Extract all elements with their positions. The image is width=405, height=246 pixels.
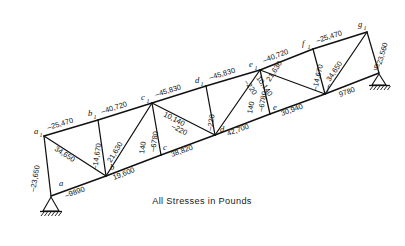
svg-text:1: 1 xyxy=(308,44,311,50)
svg-text:b: b xyxy=(88,108,93,118)
figure-canvas: a b c d e f g a 1 b 1 c 1 d 1 e 1 f 1 xyxy=(0,0,405,246)
member-a1-a xyxy=(44,136,51,196)
stress-b1-b: –14,670 xyxy=(90,143,103,171)
svg-text:1: 1 xyxy=(40,132,43,138)
stress-labels-verticals: –14,670 –6780 140 –220 –6780 140 –14,670 xyxy=(90,63,325,170)
stress-labels-bottom-chord: –9890 19,600 38,820 42,700 30,940 9780 xyxy=(64,85,357,200)
stress-d-e: 42,700 xyxy=(226,122,250,138)
figure-caption: All Stresses in Pounds xyxy=(152,196,252,206)
stress-c-d: 38,820 xyxy=(170,143,194,159)
svg-text:f: f xyxy=(302,38,306,48)
node-label-c: c xyxy=(163,142,167,152)
stress-a-b: –9890 xyxy=(64,184,86,199)
support-hatch-left xyxy=(41,212,62,216)
stress-b1-c1: –40,720 xyxy=(100,99,128,116)
node-label-b1: b 1 xyxy=(88,108,97,120)
svg-text:1: 1 xyxy=(94,114,97,120)
node-label-e: e xyxy=(273,102,277,112)
stress-e1-e-secondary: 140 xyxy=(245,101,256,115)
support-left xyxy=(40,197,62,216)
svg-text:e: e xyxy=(249,59,253,69)
node-label-g1: g 1 xyxy=(358,19,367,31)
stress-d1-d: –220 xyxy=(205,114,216,132)
stress-c1-c-secondary: 140 xyxy=(137,141,148,155)
stress-e-f: 30,940 xyxy=(280,102,304,118)
node-label-a: a xyxy=(59,178,63,188)
node-label-d1: d 1 xyxy=(195,75,204,87)
stress-c1-d1: –45,830 xyxy=(154,82,182,99)
stress-c1-d-secondary: –220 xyxy=(170,122,189,137)
stress-a1-a: –23,650 xyxy=(28,164,42,192)
node-label-a1: a 1 xyxy=(34,126,43,138)
stress-a1-b: 34,650 xyxy=(53,144,77,164)
svg-text:1: 1 xyxy=(201,81,204,87)
stress-c1-c: –6780 xyxy=(148,131,160,153)
svg-text:g: g xyxy=(358,19,363,29)
node-label-c1: c 1 xyxy=(141,92,150,104)
svg-text:1: 1 xyxy=(255,65,258,71)
svg-text:d: d xyxy=(195,75,200,85)
node-label-e1: e 1 xyxy=(249,59,258,71)
stress-b-c: 19,600 xyxy=(111,165,135,182)
svg-text:c: c xyxy=(141,92,145,102)
stress-f-g: 9780 xyxy=(338,85,357,99)
support-triangle-left xyxy=(43,197,59,211)
node-label-f1: f 1 xyxy=(302,38,311,50)
svg-text:a: a xyxy=(34,126,38,136)
stress-f1-g1: –25,470 xyxy=(315,28,343,45)
stress-a1-b1: –25,470 xyxy=(46,116,74,132)
truss-diagram: a b c d e f g a 1 b 1 c 1 d 1 e 1 f 1 xyxy=(0,0,405,246)
stress-g1-g: –23,560 xyxy=(373,41,389,69)
member-g1-f xyxy=(325,32,367,94)
stress-d1-e1: –45,830 xyxy=(208,66,236,82)
node-label-d: d xyxy=(220,124,225,134)
svg-text:1: 1 xyxy=(147,98,150,104)
svg-text:1: 1 xyxy=(364,25,367,31)
support-hatch-right xyxy=(370,86,391,90)
